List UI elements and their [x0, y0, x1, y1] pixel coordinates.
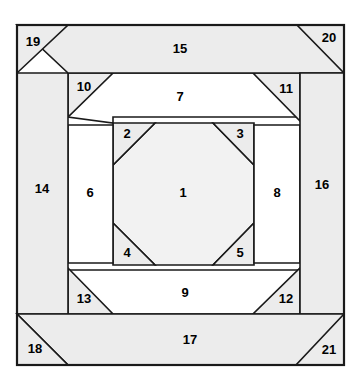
patch-label-2: 2 — [123, 126, 130, 141]
patch-label-3: 3 — [236, 126, 243, 141]
patch-label-9: 9 — [181, 285, 188, 300]
patch-label-11: 11 — [279, 81, 293, 96]
patch-label-20: 20 — [322, 30, 336, 45]
patch-label-1: 1 — [179, 185, 186, 200]
patch-label-16: 16 — [315, 177, 329, 192]
patch-label-7: 7 — [176, 89, 183, 104]
patch-label-13: 13 — [77, 291, 91, 306]
patch-label-8: 8 — [273, 185, 280, 200]
patch-label-19: 19 — [26, 34, 40, 49]
patch-label-10: 10 — [77, 79, 91, 94]
patch-piece-17 — [17, 314, 344, 365]
patch-label-21: 21 — [322, 342, 336, 357]
patchwork-diagram: 123456789101112131415161718192021 — [0, 0, 360, 387]
patchwork-block-svg: 123456789101112131415161718192021 — [0, 0, 360, 387]
patch-label-14: 14 — [35, 181, 50, 196]
patch-label-15: 15 — [173, 41, 187, 56]
patch-label-18: 18 — [28, 341, 42, 356]
patch-label-4: 4 — [123, 245, 131, 260]
patch-label-17: 17 — [183, 332, 197, 347]
patch-piece-16 — [300, 73, 344, 314]
patch-label-6: 6 — [86, 185, 93, 200]
patch-label-5: 5 — [236, 245, 243, 260]
patch-label-12: 12 — [279, 291, 293, 306]
